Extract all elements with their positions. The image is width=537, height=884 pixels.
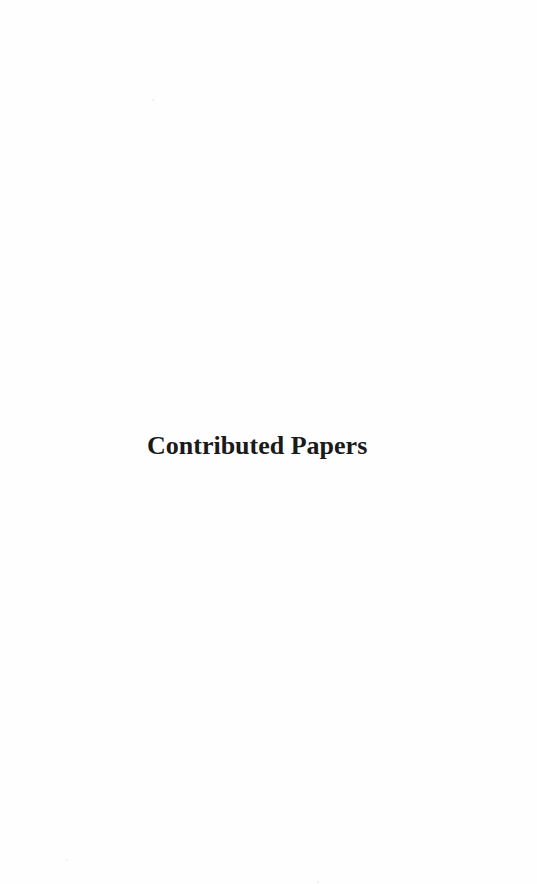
- scan-speck: [317, 881, 319, 883]
- document-page: Contributed Papers: [0, 0, 537, 884]
- section-title: Contributed Papers: [147, 428, 367, 464]
- scan-speck: [152, 99, 154, 101]
- scan-speck: [66, 859, 68, 861]
